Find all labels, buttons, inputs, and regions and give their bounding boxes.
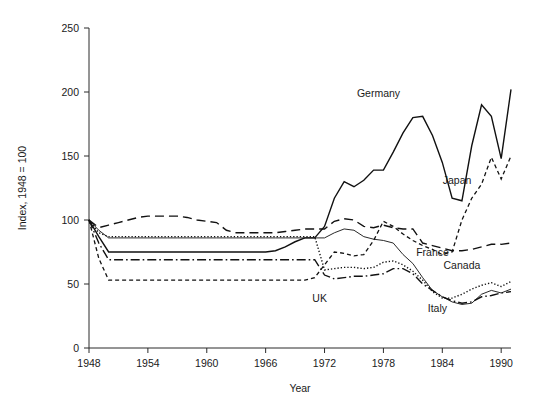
series-label-japan: Japan (443, 174, 472, 186)
x-tick-label-1960: 1960 (195, 357, 219, 369)
x-tick-label-1966: 1966 (254, 357, 278, 369)
y-tick-label-150: 150 (61, 150, 79, 162)
series-annotation-labels: GermanyJapanCanadaFranceUKItaly (312, 87, 480, 314)
y-tick-label-200: 200 (61, 86, 79, 98)
chart-figure: 050100150200250 194819541960196619721978… (0, 0, 540, 407)
x-tick-label-1978: 1978 (372, 357, 396, 369)
x-tick-label-1990: 1990 (490, 357, 514, 369)
series-label-germany: Germany (357, 87, 401, 99)
series-label-italy: Italy (428, 302, 448, 314)
data-series-group (89, 89, 511, 304)
line-chart-plot: 050100150200250 194819541960196619721978… (0, 0, 540, 407)
x-tick-label-1954: 1954 (136, 357, 160, 369)
series-line-germany (89, 89, 511, 252)
y-axis-tick-labels: 050100150200250 (61, 22, 79, 354)
y-axis-tick-marks (84, 28, 89, 348)
x-tick-label-1984: 1984 (431, 357, 455, 369)
y-tick-label-0: 0 (73, 342, 79, 354)
x-axis-tick-marks (89, 348, 501, 353)
x-tick-label-1948: 1948 (77, 357, 101, 369)
x-axis-title: Year (289, 382, 311, 394)
x-axis-tick-labels: 19481954196019661972197819841990 (77, 357, 513, 369)
series-label-france: France (416, 246, 449, 258)
y-axis-title: Index, 1948 = 100 (16, 146, 28, 231)
series-label-uk: UK (312, 292, 327, 304)
series-label-canada: Canada (444, 259, 481, 271)
y-tick-label-250: 250 (61, 22, 79, 34)
y-tick-label-100: 100 (61, 214, 79, 226)
x-tick-label-1972: 1972 (313, 357, 337, 369)
y-tick-label-50: 50 (67, 278, 79, 290)
